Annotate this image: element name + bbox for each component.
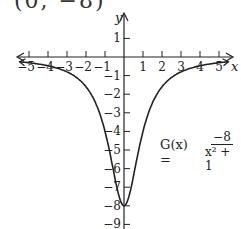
x-tick-label: −2: [74, 60, 92, 74]
tick-labels: −5−4−3−2−1123451−1−2−3−4−5−6−7−8−9xy: [17, 10, 239, 229]
function-label: G(x) = −8 x² + 1: [160, 130, 241, 173]
axes: [17, 13, 233, 229]
numerator: −8: [211, 130, 233, 145]
y-tick-label: 1: [113, 31, 121, 45]
y-tick-label: −8: [103, 199, 121, 213]
x-tick-label: −3: [55, 60, 73, 74]
x-tick-label: 2: [158, 60, 166, 74]
graph: −5−4−3−2−1123451−1−2−3−4−5−6−7−8−9xy: [0, 0, 241, 229]
y-tick-label: −9: [103, 217, 121, 229]
x-tick-label: 1: [139, 60, 147, 74]
y-axis-label: y: [114, 10, 123, 25]
y-tick-label: −1: [103, 69, 121, 83]
x-axis-label: x: [231, 59, 239, 74]
y-tick-label: −5: [103, 143, 121, 157]
y-tick-label: −3: [103, 106, 121, 120]
denominator: x² + 1: [203, 145, 241, 173]
y-tick-label: −2: [103, 87, 121, 101]
function-name: G(x) =: [160, 137, 200, 167]
fraction: −8 x² + 1: [203, 130, 241, 173]
